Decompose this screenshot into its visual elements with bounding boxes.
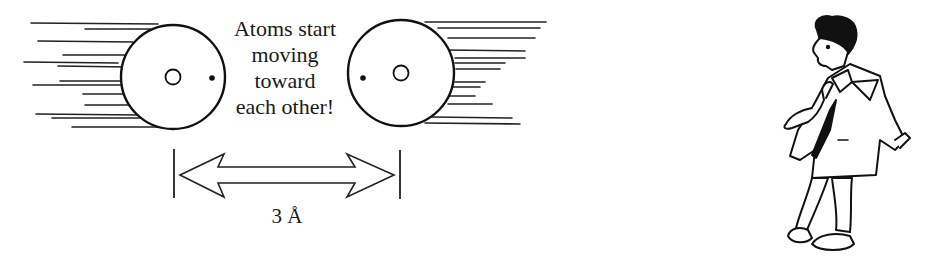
caption-line-2: moving: [220, 42, 350, 68]
caption-line-3: toward: [220, 68, 350, 94]
distance-indicator: [174, 149, 400, 199]
right-atom-electron: [360, 75, 366, 81]
right-atom-shell: [348, 20, 454, 126]
cartoon-man-illustration: [784, 16, 910, 250]
caption-line-4: each other!: [220, 94, 350, 120]
right-atom: [348, 20, 454, 126]
left-atom: [121, 25, 225, 129]
caption-line-1: Atoms start: [220, 16, 350, 42]
diagram-canvas: [0, 0, 938, 267]
double-arrow-icon: [180, 154, 394, 197]
left-atom-electron: [209, 75, 215, 81]
caption-text: Atoms start moving toward each other!: [220, 16, 350, 120]
distance-label: 3 Å: [252, 204, 322, 229]
